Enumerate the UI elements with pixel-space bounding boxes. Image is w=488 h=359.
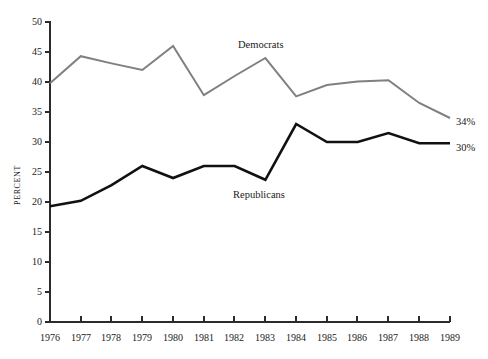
y-tick-marks [45,22,50,322]
y-tick-label: 10 [32,256,42,267]
y-tick-labels: 50 45 40 35 30 25 20 15 10 5 0 [32,16,42,327]
y-tick-label: 45 [32,46,42,57]
x-tick-label: 1988 [409,332,429,343]
x-tick-labels: 1976 1977 1978 1979 1980 1981 1982 1983 … [40,332,460,343]
end-label-democrats: 34% [456,116,476,127]
y-tick-label: 35 [32,106,42,117]
x-tick-label: 1983 [255,332,275,343]
end-label-republicans: 30% [456,142,476,153]
chart-container: 50 45 40 35 30 25 20 15 10 5 0 [0,0,488,359]
x-tick-label: 1982 [224,332,244,343]
y-tick-label: 40 [32,76,42,87]
annotation-republicans: Republicans [233,189,285,200]
y-tick-label: 15 [32,226,42,237]
x-tick-label: 1984 [286,332,306,343]
series-line-democrats [50,46,450,118]
x-tick-label: 1977 [71,332,91,343]
x-tick-label: 1989 [440,332,460,343]
x-tick-label: 1979 [132,332,152,343]
x-tick-label: 1976 [40,332,60,343]
x-tick-marks [50,316,450,322]
y-tick-label: 20 [32,196,42,207]
x-tick-label: 1980 [163,332,183,343]
y-axis-title: PERCENT [13,165,22,205]
line-chart: 50 45 40 35 30 25 20 15 10 5 0 [0,0,488,359]
x-tick-label: 1981 [194,332,214,343]
y-tick-label: 50 [32,16,42,27]
x-tick-label: 1978 [101,332,121,343]
y-tick-label: 25 [32,166,42,177]
annotation-democrats: Democrats [238,39,283,50]
y-tick-label: 30 [32,136,42,147]
y-tick-label: 0 [37,316,42,327]
y-tick-label: 5 [37,286,42,297]
x-tick-label: 1985 [317,332,337,343]
x-tick-label: 1986 [347,332,367,343]
x-tick-label: 1987 [378,332,398,343]
